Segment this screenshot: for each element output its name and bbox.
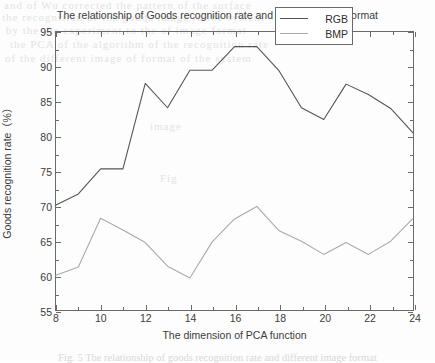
chart-title: The relationship of Goods recognition ra… [0,9,435,21]
x-tick-label: 22 [364,312,376,324]
y-tick-label: 70 [40,201,52,213]
x-axis-title: The dimension of PCA function [55,329,414,341]
series-line-rgb [56,47,413,205]
x-tick-label: 18 [275,312,287,324]
y-tick-label: 85 [40,96,52,108]
x-tick [415,305,416,310]
legend-swatch-rgb-icon [280,18,308,19]
series-lines [56,32,413,310]
y-tick-label: 75 [40,166,52,178]
legend-swatch-bmp-icon [280,33,308,34]
y-tick-label: 90 [40,61,52,73]
y-axis-title: Goods recognition rate（%） [0,103,14,239]
chart-legend: RGBBMP [275,7,353,45]
x-tick-label: 16 [230,312,242,324]
y-tick-label: 80 [40,131,52,143]
figure-caption: Fig. 5 The relationship of goods recogni… [0,352,435,363]
legend-label: RGB [313,13,348,25]
legend-item-rgb[interactable]: RGB [280,11,348,26]
y-tick-label: 60 [40,271,52,283]
y-tick-label: 65 [40,236,52,248]
x-tick-label: 14 [185,312,197,324]
x-tick [415,32,416,37]
y-tick-label: 95 [40,26,52,38]
x-tick-label: 24 [409,312,421,324]
series-line-bmp [56,206,413,278]
plot-area: 55606570758085909581012141618202224 [55,31,414,311]
legend-item-bmp[interactable]: BMP [280,26,348,41]
x-tick-label: 20 [319,312,331,324]
legend-label: BMP [313,28,348,40]
x-tick-label: 12 [140,312,152,324]
y-tick-label: 55 [40,306,52,318]
x-tick-label: 8 [53,312,59,324]
x-tick-label: 10 [95,312,107,324]
